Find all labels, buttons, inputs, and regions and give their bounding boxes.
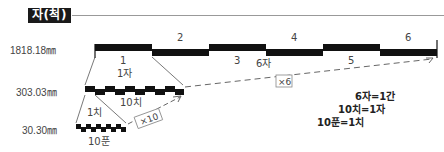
gan-segment-5: 5: [348, 55, 354, 66]
multiplier-x6: ×6: [278, 77, 292, 87]
gan-segment-4: 4: [291, 32, 297, 43]
equation-chi: 10푼=1치: [317, 114, 364, 129]
gan-bar: [95, 40, 437, 58]
multiplier-x6-box: ×6: [276, 75, 292, 87]
ja-bottom-caption: 10치: [120, 97, 142, 108]
ja-top-caption: 1자: [117, 68, 132, 79]
chi-bottom-caption: 10푼: [88, 136, 110, 147]
unit-diagram: 1 2 3 4 5 6 6자 1자 10치 ×6 1치: [0, 0, 444, 152]
chi-bar: [76, 124, 126, 132]
gan-segment-6: 6: [405, 32, 411, 43]
gan-segment-1: 1: [120, 55, 126, 66]
gan-segment-2: 2: [177, 32, 183, 43]
chi-top-caption: 1치: [87, 107, 102, 118]
gan-segment-3: 3: [234, 55, 240, 66]
ja-bar: [85, 86, 184, 95]
gan-caption: 6자: [256, 58, 271, 69]
multiplier-x10-box: ×10: [134, 108, 163, 128]
